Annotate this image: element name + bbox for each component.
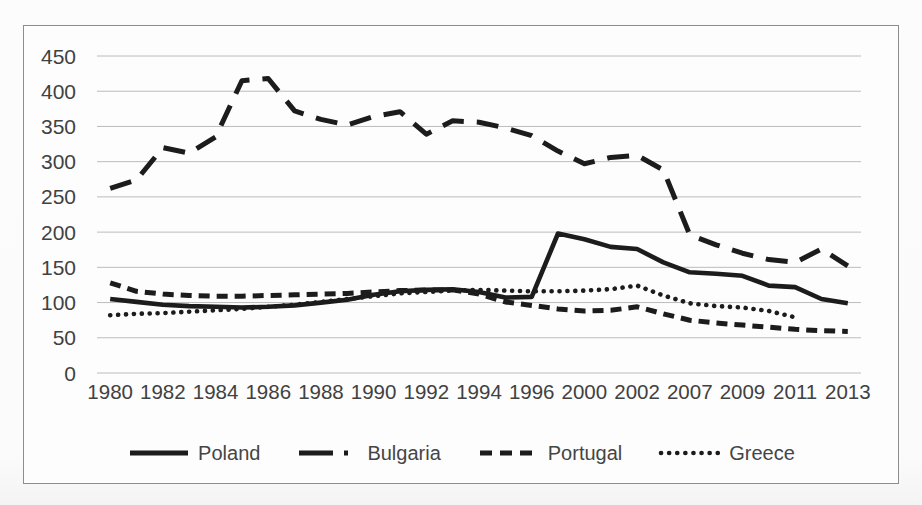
x-tick-label: 2007 (667, 380, 713, 403)
legend-item-greece: Greece (658, 442, 795, 465)
y-axis-labels: 450400350300250200150100500 (41, 45, 76, 385)
legend-item-portugal: Portugal (477, 442, 623, 465)
legend-marker-greece-line-icon (658, 447, 722, 459)
legend-marker-poland-line-icon (127, 447, 191, 459)
x-tick-label: 2011 (773, 380, 817, 403)
legend-marker-bulgaria-line-icon (296, 447, 360, 459)
y-tick-label: 300 (41, 150, 76, 173)
legend-label: Portugal (548, 442, 623, 465)
x-tick-label: 1980 (87, 380, 133, 403)
x-tick-label: 1984 (193, 380, 239, 403)
line-chart: 4504003503002502001501005001980198219841… (24, 26, 898, 483)
x-tick-label: 2002 (614, 380, 660, 403)
legend-item-bulgaria: Bulgaria (296, 442, 440, 465)
scanned-page: 4504003503002502001501005001980198219841… (0, 0, 922, 505)
y-tick-label: 100 (41, 291, 76, 314)
x-tick-label: 1988 (298, 380, 344, 403)
y-tick-label: 0 (64, 362, 76, 385)
y-gridlines (97, 56, 861, 373)
x-tick-label: 1990 (351, 380, 397, 403)
y-tick-label: 400 (41, 80, 76, 103)
x-tick-label: 2000 (562, 380, 608, 403)
x-tick-label: 1996 (509, 380, 555, 403)
x-tick-label: 1986 (245, 380, 291, 403)
legend-label: Bulgaria (367, 442, 440, 465)
y-tick-label: 350 (41, 115, 76, 138)
x-tick-label: 1992 (404, 380, 450, 403)
y-tick-label: 50 (53, 326, 76, 349)
x-axis-labels: 1980198219841986198819901992199419962000… (87, 380, 870, 403)
chart-frame: 4504003503002502001501005001980198219841… (23, 25, 899, 484)
x-tick-label: 2013 (825, 380, 871, 403)
legend-marker-portugal-line-icon (477, 447, 541, 459)
x-tick-label: 1994 (456, 380, 502, 403)
y-tick-label: 150 (41, 256, 76, 279)
legend-label: Greece (729, 442, 795, 465)
y-tick-label: 250 (41, 185, 76, 208)
series-bulgaria (110, 79, 848, 266)
x-tick-label: 2009 (720, 380, 766, 403)
x-tick-label: 1982 (140, 380, 186, 403)
chart-legend: PolandBulgariaPortugalGreece (24, 438, 898, 468)
y-tick-label: 450 (41, 45, 76, 68)
legend-item-poland: Poland (127, 442, 260, 465)
legend-label: Poland (198, 442, 260, 465)
y-tick-label: 200 (41, 221, 76, 244)
